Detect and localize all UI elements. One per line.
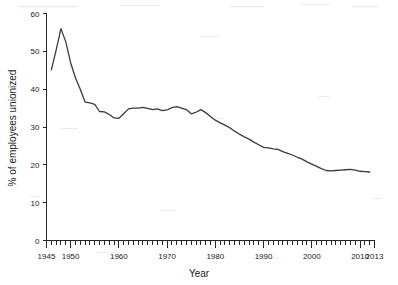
unionization-line-chart: 0102030405060 19451950196019701980199020… — [0, 0, 398, 285]
y-tick-label: 30 — [31, 123, 40, 132]
y-tick-label: 60 — [31, 10, 40, 19]
scan-speck — [372, 198, 382, 199]
x-tick-label: 1990 — [255, 252, 273, 261]
x-axis-title: Year — [189, 268, 210, 279]
scan-speck — [318, 96, 330, 97]
y-tick-label: 20 — [31, 161, 40, 170]
x-tick-label: 1960 — [110, 252, 128, 261]
scan-speck — [60, 128, 78, 129]
y-axis-title: % of employees unionized — [7, 70, 18, 187]
scan-speck — [300, 4, 330, 5]
y-tick-label: 10 — [31, 199, 40, 208]
data-line-of-employees-unionized — [51, 29, 369, 172]
scan-artifacts — [18, 4, 382, 259]
x-tick-label: 1980 — [206, 252, 224, 261]
axes — [47, 14, 375, 241]
x-tick-label: 2000 — [303, 252, 321, 261]
scan-speck — [18, 6, 78, 7]
data-series-group — [51, 29, 369, 172]
y-tick-label: 40 — [31, 85, 40, 94]
scan-speck — [200, 36, 220, 37]
x-tick-label: 1945 — [38, 252, 56, 261]
scan-speck — [120, 5, 160, 6]
x-tick-label: 1970 — [158, 252, 176, 261]
scan-speck — [352, 6, 378, 7]
chart-container: 0102030405060 19451950196019701980199020… — [0, 0, 398, 285]
x-tick-label: 1950 — [62, 252, 80, 261]
y-tick-label: 50 — [31, 47, 40, 56]
x-tick-label: 2013 — [366, 252, 384, 261]
y-axis-ticks: 0102030405060 — [31, 10, 47, 246]
scan-speck — [160, 210, 174, 211]
scan-speck — [230, 6, 264, 7]
scan-speck — [30, 196, 40, 197]
x-axis-ticks: 194519501960197019801990200020102013 — [38, 241, 384, 261]
y-tick-label: 0 — [35, 237, 40, 246]
